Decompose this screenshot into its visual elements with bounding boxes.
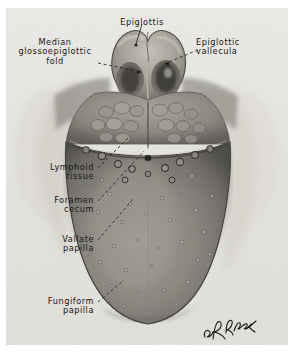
- artist-signature: R.Drake: [202, 313, 258, 345]
- label-epiglottis: Epiglottis: [104, 18, 180, 27]
- label-lymphoid-tissue: Lymphoid tissue: [12, 163, 94, 182]
- label-epiglottic-vallecula: Epiglottic vallecula: [196, 38, 288, 57]
- label-fungiform-papilla: Fungiform papilla: [12, 297, 94, 316]
- anatomy-figure: Epiglottis Median glossoepiglottic fold …: [0, 0, 294, 353]
- label-median-glossoepiglottic-fold: Median glossoepiglottic fold: [6, 38, 104, 66]
- label-foramen-cecum: Foramen cecum: [18, 196, 94, 215]
- label-vallate-papilla: Vallate papilla: [22, 235, 94, 254]
- illustration-plate: Epiglottis Median glossoepiglottic fold …: [6, 8, 288, 345]
